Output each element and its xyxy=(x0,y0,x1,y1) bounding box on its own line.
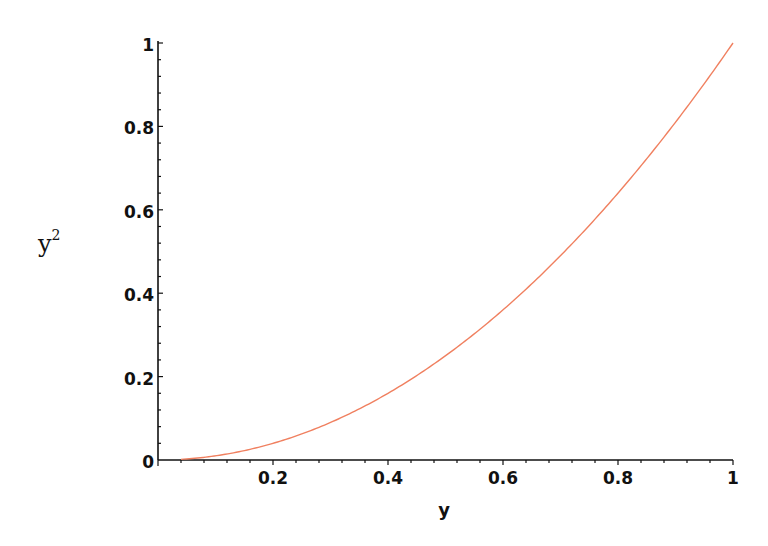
x-tick-label: 0.4 xyxy=(373,468,403,488)
x-tick-label: 1 xyxy=(727,468,739,488)
y-tick-label: 0.8 xyxy=(124,118,154,138)
y-axis-title: y2 xyxy=(37,227,60,258)
axes xyxy=(158,41,733,460)
y-tick-label: 0.4 xyxy=(124,285,154,305)
y-tick-label: 0 xyxy=(142,452,154,472)
x-tick-label: 0.8 xyxy=(603,468,633,488)
x-axis-title: y xyxy=(438,499,450,520)
data-series-curve xyxy=(181,43,733,459)
y-axis-title-base: y xyxy=(37,230,52,258)
tick-labels: 0.20.40.60.8100.20.40.60.81 xyxy=(124,35,739,488)
ticks xyxy=(158,43,733,466)
plot-area: 0.20.40.60.8100.20.40.60.81 y y2 xyxy=(0,0,768,546)
y-axis-title-superscript: 2 xyxy=(52,227,61,243)
x-tick-label: 0.6 xyxy=(488,468,518,488)
y-tick-label: 1 xyxy=(142,35,154,55)
y-tick-label: 0.2 xyxy=(124,369,154,389)
x-tick-label: 0.2 xyxy=(258,468,288,488)
y-tick-label: 0.6 xyxy=(124,202,154,222)
